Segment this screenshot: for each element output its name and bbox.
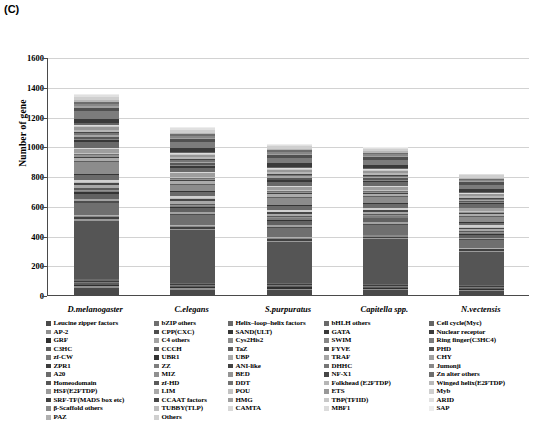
legend-swatch-icon (324, 347, 329, 352)
legend-item[interactable]: Jumonji (429, 362, 533, 371)
legend-item[interactable]: Leucine zipper factors (46, 319, 154, 328)
legend-swatch-icon (154, 364, 159, 369)
legend-swatch-icon (46, 347, 51, 352)
legend-item[interactable]: CHY (429, 353, 533, 362)
legend-item[interactable]: GRF (46, 336, 154, 345)
legend-item[interactable]: Homeodomain (46, 379, 154, 388)
y-axis-tick-mark (42, 207, 47, 208)
bar-segment (459, 291, 504, 295)
legend-swatch-icon (154, 347, 159, 352)
legend-item-label: MIZ (162, 370, 176, 379)
legend-item-label: Folkhead (E2FTDP) (332, 379, 391, 388)
legend-swatch-icon (46, 338, 51, 343)
legend-item-label: TaZ (236, 345, 248, 354)
legend-swatch-icon (228, 330, 233, 335)
legend-item[interactable]: BED (228, 370, 324, 379)
x-axis-tick-label: S.purpuratus (265, 304, 311, 314)
legend-item[interactable]: SRF-TF(MADS box etc) (46, 396, 154, 405)
legend-item[interactable]: C3HC (46, 345, 154, 354)
legend-item[interactable]: NF-X1 (324, 370, 429, 379)
legend-item-label: HMG (236, 396, 253, 405)
legend-swatch-icon (429, 381, 434, 386)
legend-item[interactable]: DHHC (324, 362, 429, 371)
legend-item-label: LIM (162, 387, 176, 396)
legend-swatch-icon (228, 372, 233, 377)
legend-item[interactable]: bHLH others (324, 319, 429, 328)
legend-item[interactable]: SAP (429, 404, 533, 413)
legend-swatch-icon (154, 381, 159, 386)
legend-item[interactable]: TBP(TFIID) (324, 396, 429, 405)
legend-item[interactable]: ARID (429, 396, 533, 405)
legend-item[interactable]: HMG (228, 396, 324, 405)
bar-segment (74, 288, 119, 295)
legend-swatch-icon (46, 381, 51, 386)
bar-segment (267, 198, 312, 205)
legend-item[interactable]: zf-HD (154, 379, 228, 388)
legend-item[interactable]: PAZ (46, 413, 154, 422)
legend-item[interactable]: β-Scaffold others (46, 404, 154, 413)
bar-segment (170, 230, 215, 283)
legend-item[interactable]: Zn alter others (429, 370, 533, 379)
legend-item[interactable]: CCAAT factors (154, 396, 228, 405)
legend-item[interactable]: Nuclear receptor (429, 328, 533, 337)
legend-item[interactable]: CCCH (154, 345, 228, 354)
legend-item-label: Jumonji (437, 362, 461, 371)
legend-item[interactable]: C4 others (154, 336, 228, 345)
chart-legend: Leucine zipper factorsAP-2GRFC3HCzf-CWZP… (46, 319, 533, 430)
legend-swatch-icon (228, 389, 233, 394)
legend-item[interactable]: bZIP others (154, 319, 228, 328)
legend-item[interactable]: ETS (324, 387, 429, 396)
legend-item[interactable]: HSF(E2FTDP) (46, 387, 154, 396)
legend-item[interactable]: Myb (429, 387, 533, 396)
legend-item[interactable]: Others (154, 413, 228, 422)
legend-item[interactable]: MIZ (154, 370, 228, 379)
legend-swatch-icon (154, 338, 159, 343)
legend-swatch-icon (429, 389, 434, 394)
legend-item-label: GATA (332, 328, 351, 337)
legend-item-label: UBP (236, 353, 250, 362)
legend-item-label: CCAAT factors (162, 396, 207, 405)
legend-item[interactable]: UBR1 (154, 353, 228, 362)
legend-item[interactable]: Winged helix(E2FTDP) (429, 379, 533, 388)
legend-item-label: Leucine zipper factors (54, 319, 119, 328)
legend-item[interactable]: CPP(CXC) (154, 328, 228, 337)
legend-item[interactable]: ZPR1 (46, 362, 154, 371)
y-axis-tick-mark (42, 177, 47, 178)
legend-item[interactable]: Ring finger(C3HC4) (429, 336, 533, 345)
legend-item[interactable]: Helix–loop–helix factors (228, 319, 324, 328)
legend-item-label: CCCH (162, 345, 182, 354)
legend-item[interactable]: Folkhead (E2FTDP) (324, 379, 429, 388)
legend-item[interactable]: A20 (46, 370, 154, 379)
y-axis-tick-label: 600 (4, 202, 44, 212)
y-axis-tick-mark (42, 147, 47, 148)
legend-swatch-icon (154, 389, 159, 394)
legend-item[interactable]: DDT (228, 379, 324, 388)
legend-item[interactable]: SAND(ULT) (228, 328, 324, 337)
legend-item[interactable]: zf-CW (46, 353, 154, 362)
legend-swatch-icon (429, 398, 434, 403)
legend-item[interactable]: SWIM (324, 336, 429, 345)
legend-item[interactable]: PHD (429, 345, 533, 354)
legend-item[interactable]: TaZ (228, 345, 324, 354)
legend-item[interactable]: AP-2 (46, 328, 154, 337)
legend-item-label: NF-X1 (332, 370, 352, 379)
legend-item[interactable]: TRAF (324, 353, 429, 362)
legend-item[interactable]: POU (228, 387, 324, 396)
legend-item[interactable]: UBP (228, 353, 324, 362)
bar-segment (459, 252, 504, 285)
legend-item-label: UBR1 (162, 353, 180, 362)
legend-item[interactable]: Cell cycle(Myc) (429, 319, 533, 328)
legend-item[interactable]: Cys2His2 (228, 336, 324, 345)
legend-item[interactable]: ZZ (154, 362, 228, 371)
legend-item[interactable]: FYVE (324, 345, 429, 354)
legend-item[interactable]: TUBBY(TLP) (154, 404, 228, 413)
legend-item[interactable]: LIM (154, 387, 228, 396)
legend-item[interactable]: GATA (324, 328, 429, 337)
legend-item-label: AP-2 (54, 328, 69, 337)
legend-item-label: Homeodomain (54, 379, 97, 388)
legend-item[interactable]: MBF1 (324, 404, 429, 413)
legend-item[interactable]: ANI-like (228, 362, 324, 371)
gridline (48, 118, 529, 119)
y-axis-tick-mark (42, 237, 47, 238)
legend-item[interactable]: CAMTA (228, 404, 324, 413)
